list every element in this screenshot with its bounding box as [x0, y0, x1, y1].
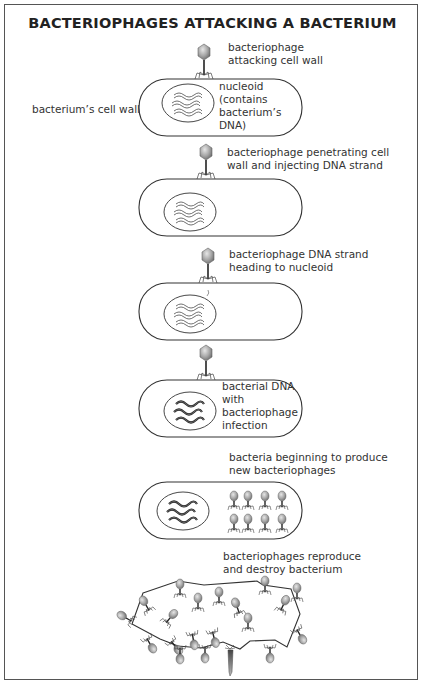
stage-5-caption: bacteria beginning to produce new bacter…	[229, 451, 388, 477]
stage-5-bacterium	[139, 482, 302, 539]
stage-6-caption: bacteriophages reproduce and destroy bac…	[223, 550, 361, 576]
stage-6-destroyed-bacterium	[114, 576, 310, 676]
cell-wall-label: bacterium’s cell wall	[32, 103, 140, 116]
stage-2-caption: bacteriophage penetrating cell wall and …	[227, 146, 389, 172]
nucleoid-label: nucleoid (contains bacterium’s DNA)	[219, 80, 281, 132]
stage-3-caption: bacteriophage DNA strand heading to nucl…	[229, 248, 368, 274]
stage-1-caption: bacteriophage attacking cell wall	[228, 41, 323, 67]
infected-dna-label: bacterial DNA with bacteriophage infecti…	[222, 380, 298, 432]
